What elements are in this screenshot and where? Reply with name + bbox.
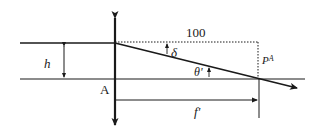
refracted-ray xyxy=(115,43,297,88)
diagram-canvas: 100 δ θ' h A f' PA xyxy=(0,0,323,135)
delta-label: δ xyxy=(171,45,178,60)
focal-length-label: f' xyxy=(194,104,201,119)
point-a-label: A xyxy=(100,82,110,97)
lens-ray-diagram: 100 δ θ' h A f' PA xyxy=(0,0,323,135)
height-label: h xyxy=(44,56,51,71)
theta-label: θ' xyxy=(194,65,203,79)
distance-label: 100 xyxy=(186,25,206,40)
point-p-superscript: A xyxy=(268,54,274,63)
point-p-label: PA xyxy=(261,54,274,66)
